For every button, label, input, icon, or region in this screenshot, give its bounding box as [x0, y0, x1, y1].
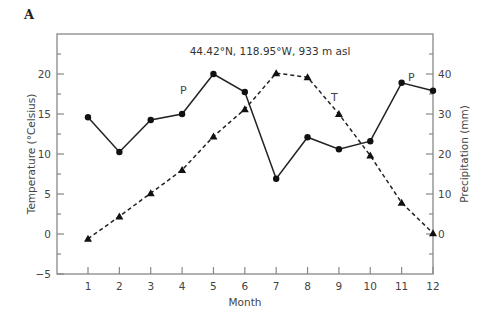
right-axis-title: Precipitation (mm) [458, 105, 470, 203]
marker-t [429, 229, 437, 236]
right-tick-label: 40 [438, 68, 451, 80]
x-axis-title: Month [229, 296, 262, 308]
series-line-t [88, 73, 433, 239]
marker-t [335, 110, 343, 117]
right-tick-label: 10 [438, 188, 451, 200]
right-tick-label: 30 [438, 108, 451, 120]
x-tick-label: 12 [426, 280, 439, 292]
marker-p [304, 134, 310, 140]
x-tick-label: 6 [241, 280, 248, 292]
marker-p [179, 111, 185, 117]
left-tick-label: 0 [44, 228, 51, 240]
x-tick-label: 9 [336, 280, 343, 292]
left-tick-label: 20 [38, 68, 51, 80]
left-tick-label: 10 [38, 148, 51, 160]
series-layer [84, 69, 437, 242]
marker-p [398, 80, 404, 86]
series-label-p-2: P [408, 71, 415, 84]
left-tick-label: 15 [38, 108, 51, 120]
marker-p [210, 71, 216, 77]
marker-p [116, 149, 122, 155]
x-tick-label: 10 [364, 280, 377, 292]
marker-t [241, 105, 249, 112]
x-tick-label: 2 [116, 280, 123, 292]
right-tick-label: 0 [438, 228, 445, 240]
marker-t [147, 189, 155, 196]
x-tick-label: 7 [273, 280, 280, 292]
x-tick-label: 4 [179, 280, 186, 292]
left-tick-label: 5 [44, 188, 51, 200]
left-tick-label: −5 [36, 268, 51, 280]
x-tick-label: 3 [147, 280, 154, 292]
marker-p [85, 114, 91, 120]
marker-p [430, 88, 436, 94]
x-tick-label: 11 [395, 280, 408, 292]
left-axis-title: Temperature (°Celsius) [25, 94, 37, 216]
marker-p [367, 138, 373, 144]
x-axis: 123456789101112 [85, 267, 440, 292]
right-y-axis: 010203040 [426, 54, 451, 254]
left-y-axis: −505101520 [36, 54, 64, 280]
marker-p [336, 146, 342, 152]
climate-chart: A −505101520 010203040 123456789101112 4… [0, 0, 491, 320]
series-label-p-1: P [180, 84, 187, 97]
x-tick-label: 5 [210, 280, 217, 292]
marker-p [148, 117, 154, 123]
series-line-p [88, 74, 433, 179]
plot-frame [57, 34, 433, 274]
marker-p [273, 176, 279, 182]
x-tick-label: 1 [85, 280, 92, 292]
panel-letter: A [23, 7, 35, 22]
station-annotation: 44.42°N, 118.95°W, 933 m asl [190, 45, 351, 57]
right-tick-label: 20 [438, 148, 451, 160]
marker-p [242, 89, 248, 95]
marker-t [209, 132, 217, 139]
marker-t [84, 235, 92, 242]
x-tick-label: 8 [304, 280, 311, 292]
marker-t [272, 69, 280, 76]
series-label-t: T [330, 91, 338, 104]
